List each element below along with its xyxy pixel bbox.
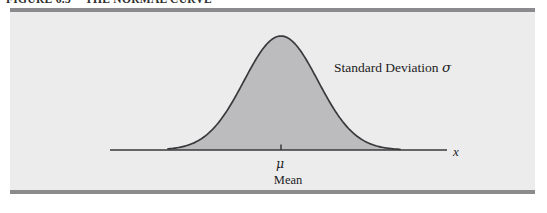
normal-curve-fill <box>168 36 400 150</box>
figure-screenshot: FIGURE 6.3THE NORMAL CURVE Standard Devi… <box>0 0 547 213</box>
x-axis-label: x <box>453 144 459 160</box>
mean-label: Mean <box>258 173 318 188</box>
normal-curve-plot <box>10 12 535 190</box>
panel-bottom-rule <box>10 190 535 194</box>
figure-panel: Standard Deviation σ μ Mean x <box>10 8 535 194</box>
figure-caption: FIGURE 6.3THE NORMAL CURVE <box>6 0 212 5</box>
mu-symbol: μ <box>276 156 284 171</box>
panel-inner: Standard Deviation σ μ Mean x <box>10 12 535 190</box>
sigma-symbol: σ <box>442 59 451 75</box>
figure-caption-label: FIGURE 6.3 <box>6 0 71 5</box>
standard-deviation-label: Standard Deviation σ <box>334 59 451 76</box>
standard-deviation-text: Standard Deviation <box>334 60 439 75</box>
figure-caption-row: FIGURE 6.3THE NORMAL CURVE <box>0 0 547 7</box>
figure-caption-text: THE NORMAL CURVE <box>85 0 212 5</box>
